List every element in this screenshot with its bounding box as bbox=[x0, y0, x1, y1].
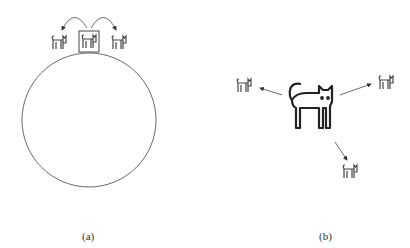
cat-icon-center bbox=[82, 35, 96, 48]
ring-circle bbox=[22, 53, 156, 187]
arrow-to-left-cat bbox=[260, 88, 282, 95]
small-cat-right bbox=[379, 76, 393, 89]
caption-b: (b) bbox=[319, 230, 332, 242]
arrow-to-right-cat bbox=[340, 84, 371, 95]
panel-a bbox=[22, 17, 156, 187]
arrow-to-left bbox=[62, 17, 87, 30]
cat-icon-right bbox=[112, 36, 126, 49]
arrow-to-right bbox=[91, 17, 116, 30]
panel-b bbox=[237, 76, 393, 178]
arrow-to-bottom-cat bbox=[335, 142, 347, 160]
diagram-canvas bbox=[0, 0, 410, 248]
small-cat-bottom bbox=[343, 165, 357, 178]
caption-a: (a) bbox=[82, 230, 94, 242]
cat-icon-left bbox=[52, 36, 66, 49]
large-cat-icon bbox=[290, 84, 332, 128]
small-cat-left bbox=[237, 79, 251, 92]
